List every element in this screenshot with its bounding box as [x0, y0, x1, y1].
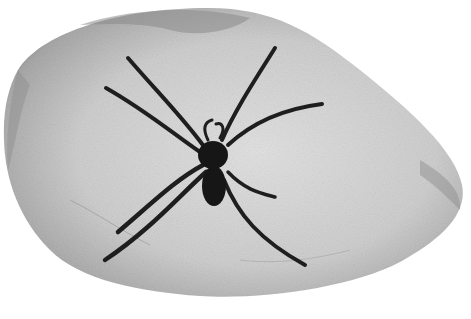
spider-fossil-image [0, 0, 471, 319]
photo-scene [0, 0, 471, 319]
stone-slab [4, 8, 463, 297]
